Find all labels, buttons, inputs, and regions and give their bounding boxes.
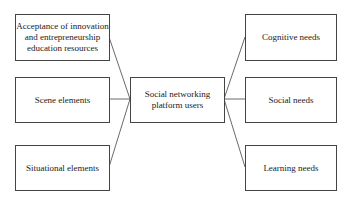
node-situational-elements: Situational elements: [15, 145, 110, 191]
node-cognitive-needs: Cognitive needs: [245, 14, 337, 61]
node-learning-label: Learning needs: [263, 163, 318, 174]
node-social-needs: Social needs: [245, 77, 337, 123]
node-center-label: Social networking platform users: [141, 89, 214, 111]
node-cognitive-label: Cognitive needs: [262, 32, 320, 43]
node-center-users: Social networking platform users: [130, 77, 225, 123]
node-acceptance: Acceptance of innovation and entrepreneu…: [15, 14, 110, 61]
edge-acceptance-center: [109, 37, 130, 99]
node-acceptance-label: Acceptance of innovation and entrepreneu…: [16, 21, 109, 54]
node-learning-needs: Learning needs: [245, 145, 337, 191]
edge-center-cognitive: [224, 37, 245, 99]
edge-situational-center: [109, 99, 130, 167]
node-scene-elements-label: Scene elements: [35, 95, 91, 106]
node-scene-elements: Scene elements: [15, 77, 110, 123]
node-situational-elements-label: Situational elements: [26, 163, 99, 174]
edge-center-learning: [224, 99, 245, 167]
node-social-label: Social needs: [268, 95, 313, 106]
